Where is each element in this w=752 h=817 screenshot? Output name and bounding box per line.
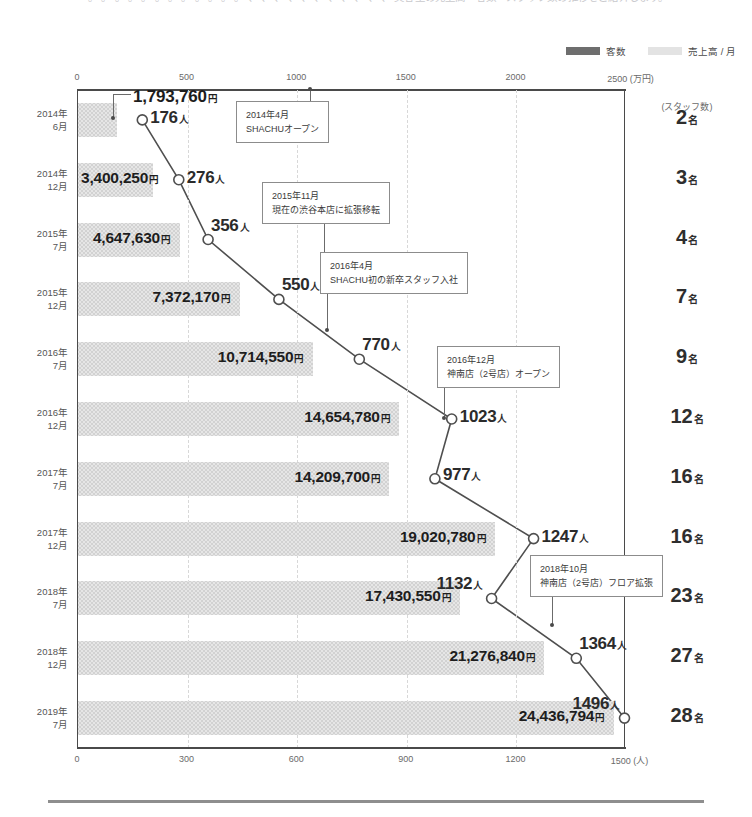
nin-unit: 人 bbox=[215, 174, 225, 185]
axis-top-tick: 1000 bbox=[286, 72, 306, 82]
customer-value: 1247 bbox=[542, 527, 579, 546]
row-label-period: 2016年12月 bbox=[10, 406, 68, 432]
annotation-leader-dot-icon bbox=[550, 623, 554, 627]
customer-value: 176 bbox=[150, 108, 177, 127]
nin-unit: 人 bbox=[179, 114, 189, 125]
revenue-bar-label: 10,714,550円 bbox=[218, 348, 304, 366]
customer-data-point[interactable] bbox=[174, 175, 184, 185]
row-label-month: 12月 bbox=[10, 658, 68, 671]
row-label-month: 12月 bbox=[10, 419, 68, 432]
annotation-text: SHACHUオープン bbox=[246, 122, 319, 136]
legend-item-revenue: 売上高 / 月 bbox=[648, 44, 736, 58]
mei-unit: 名 bbox=[688, 354, 698, 365]
customer-data-point[interactable] bbox=[620, 713, 630, 723]
axis-top-revenue: 05001000150020002500 (万円) bbox=[0, 72, 752, 86]
revenue-bar-label: 1,793,760円 bbox=[133, 87, 218, 107]
annotation-date: 2018年10月 bbox=[540, 562, 653, 576]
customer-value: 276 bbox=[187, 168, 214, 187]
annotation-leader-dot-icon bbox=[308, 87, 312, 91]
customer-data-point[interactable] bbox=[274, 294, 284, 304]
axis-top-tick: 0 bbox=[74, 72, 79, 82]
nin-unit: 人 bbox=[617, 640, 627, 651]
customer-point-label: 1132人 bbox=[437, 574, 483, 594]
row-label-year: 2015年 bbox=[10, 286, 68, 299]
staff-number: 4 bbox=[676, 226, 687, 248]
mei-unit: 名 bbox=[694, 474, 704, 485]
annotation-callout: 2014年4月SHACHUオープン bbox=[236, 101, 329, 143]
annotation-text: 神南店（2号店）フロア拡張 bbox=[540, 576, 653, 590]
customer-data-point[interactable] bbox=[447, 414, 457, 424]
nin-unit: 人 bbox=[497, 413, 507, 424]
staff-number: 3 bbox=[676, 166, 687, 188]
row-label-year: 2016年 bbox=[10, 346, 68, 359]
nin-unit: 人 bbox=[391, 341, 401, 352]
staff-number: 27 bbox=[670, 644, 692, 666]
customer-point-label: 977人 bbox=[443, 465, 481, 485]
customer-data-point[interactable] bbox=[529, 534, 539, 544]
first-bar-leader-vertical bbox=[113, 94, 114, 118]
row-label-year: 2014年 bbox=[10, 167, 68, 180]
customer-point-label: 356人 bbox=[211, 216, 249, 236]
axis-bottom-tick: 600 bbox=[289, 754, 304, 764]
customer-data-point[interactable] bbox=[203, 235, 213, 245]
row-label-year: 2014年 bbox=[10, 107, 68, 120]
staff-count-value: 2名 bbox=[637, 106, 737, 129]
yen-unit: 円 bbox=[208, 93, 218, 104]
row-label-month: 7月 bbox=[10, 240, 68, 253]
staff-count-value: 3名 bbox=[637, 166, 737, 189]
customer-value: 770 bbox=[362, 335, 389, 354]
revenue-value: 19,020,780 bbox=[400, 528, 476, 545]
intro-text-line: 。 。 。 。 。 。 。 。 。 。 。 。 、 、 、 、 、 、 、 、 … bbox=[88, 0, 688, 4]
staff-number: 2 bbox=[676, 106, 687, 128]
customer-point-label: 1247人 bbox=[542, 527, 589, 547]
revenue-bar-label: 4,647,630円 bbox=[93, 229, 171, 247]
row-label-year: 2019年 bbox=[10, 705, 68, 718]
customer-data-point[interactable] bbox=[354, 354, 364, 364]
yen-unit: 円 bbox=[371, 473, 381, 484]
chart-legend: 客数 売上高 / 月 bbox=[566, 44, 736, 58]
row-label-period: 2014年6月 bbox=[10, 107, 68, 133]
revenue-value: 1,793,760 bbox=[133, 87, 207, 106]
row-label-month: 7月 bbox=[10, 598, 68, 611]
revenue-value: 14,209,700 bbox=[294, 468, 370, 485]
staff-number: 16 bbox=[670, 465, 692, 487]
annotation-date: 2014年4月 bbox=[246, 108, 319, 122]
staff-number: 7 bbox=[676, 285, 687, 307]
row-label-year: 2018年 bbox=[10, 585, 68, 598]
customer-data-point[interactable] bbox=[137, 115, 147, 125]
customer-data-point[interactable] bbox=[430, 474, 440, 484]
legend-swatch-customers-icon bbox=[566, 47, 600, 55]
axis-bottom-tick: 0 bbox=[74, 754, 79, 764]
axis-bottom-tick: 900 bbox=[398, 754, 413, 764]
staff-number: 9 bbox=[676, 345, 687, 367]
customer-value: 550 bbox=[282, 275, 309, 294]
customer-data-point[interactable] bbox=[571, 653, 581, 663]
row-label-period: 2019年7月 bbox=[10, 705, 68, 731]
yen-unit: 円 bbox=[294, 353, 304, 364]
yen-unit: 円 bbox=[477, 533, 487, 544]
mei-unit: 名 bbox=[694, 653, 704, 664]
mei-unit: 名 bbox=[688, 175, 698, 186]
legend-label-revenue: 売上高 / 月 bbox=[688, 44, 736, 58]
staff-count-value: 4名 bbox=[637, 226, 737, 249]
staff-count-value: 27名 bbox=[637, 644, 737, 667]
legend-label-customers: 客数 bbox=[606, 44, 626, 58]
annotation-date: 2015年11月 bbox=[272, 189, 380, 203]
staff-count-value: 9名 bbox=[637, 345, 737, 368]
customer-data-point[interactable] bbox=[487, 594, 497, 604]
customer-value: 356 bbox=[211, 216, 238, 235]
row-label-year: 2017年 bbox=[10, 466, 68, 479]
row-label-year: 2018年 bbox=[10, 645, 68, 658]
row-label-period: 2014年12月 bbox=[10, 167, 68, 193]
staff-count-value: 16名 bbox=[637, 525, 737, 548]
yen-unit: 円 bbox=[381, 413, 391, 424]
yen-unit: 円 bbox=[526, 652, 536, 663]
annotation-leader-dot-icon bbox=[442, 416, 446, 420]
annotation-callout: 2015年11月現在の渋谷本店に拡張移転 bbox=[262, 182, 390, 224]
customer-point-label: 1023人 bbox=[460, 407, 507, 427]
revenue-bar-label: 19,020,780円 bbox=[400, 528, 486, 546]
axis-top-tick: 2500 (万円) bbox=[607, 72, 654, 85]
row-label-month: 7月 bbox=[10, 479, 68, 492]
customer-value: 977 bbox=[443, 465, 470, 484]
axis-top-tick: 1500 bbox=[396, 72, 416, 82]
